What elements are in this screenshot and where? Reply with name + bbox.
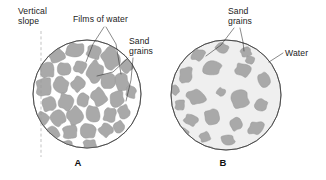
panel-a-caption: A bbox=[74, 157, 81, 168]
water-label: Water bbox=[285, 48, 308, 58]
vertical-slope-label-line2: slope bbox=[18, 16, 39, 26]
sand-grain bbox=[100, 73, 116, 90]
vertical-slope-label-line1: Vertical bbox=[18, 6, 47, 16]
panel-b-sand-grains-label-line2: grains bbox=[228, 16, 252, 26]
sand-water-diagram: Vertical slope Films of water Sand grain… bbox=[0, 0, 326, 180]
panel-a-sand-grains-label-line1: Sand bbox=[129, 36, 150, 46]
panel-b-sand-grains-label-line1: Sand bbox=[228, 6, 249, 16]
films-of-water-label: Films of water bbox=[73, 14, 128, 24]
panel-a-sand-grains-label-line2: grains bbox=[129, 46, 153, 56]
figure-container: Vertical slope Films of water Sand grain… bbox=[0, 0, 326, 180]
panel-b-caption: B bbox=[219, 157, 226, 168]
